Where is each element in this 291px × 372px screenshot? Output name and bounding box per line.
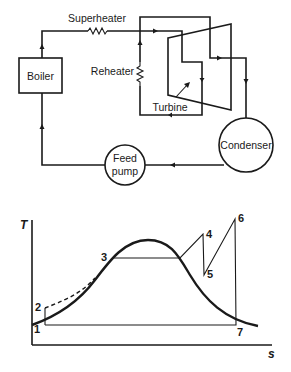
reheater-label: Reheater xyxy=(91,65,135,77)
state-point-6: 6 xyxy=(238,212,244,224)
t-axis-label: T xyxy=(20,218,29,232)
schematic: Boiler Superheater Reheater Turbine Cond… xyxy=(19,12,273,185)
saturation-dome xyxy=(32,240,258,326)
pipe-boiler-to-superheater xyxy=(42,31,88,58)
arrow-down-icon xyxy=(200,78,205,82)
arrow-up-icon xyxy=(40,124,45,129)
state-point-3: 3 xyxy=(101,251,107,263)
arrow-right-icon xyxy=(153,29,158,34)
feed-pump-label-line2: pump xyxy=(112,165,138,177)
superheater-label: Superheater xyxy=(68,12,126,24)
s-axis-label: s xyxy=(268,347,275,361)
reheater-coil xyxy=(137,62,143,86)
turbine-label: Turbine xyxy=(152,101,187,113)
turbine-casing xyxy=(168,24,231,110)
state-point-4: 4 xyxy=(206,228,213,240)
state-point-5: 5 xyxy=(207,268,213,280)
superheater-coil xyxy=(88,28,107,34)
condenser-label: Condenser xyxy=(220,139,272,151)
arrow-left-icon xyxy=(168,113,172,118)
diagram-canvas: Boiler Superheater Reheater Turbine Cond… xyxy=(0,0,291,372)
pipe-pump-to-boiler xyxy=(42,93,105,165)
arrow-down-icon xyxy=(244,79,249,84)
arrow-up-icon xyxy=(138,40,143,45)
arrow-left-icon xyxy=(170,163,175,168)
state-point-1: 1 xyxy=(34,323,40,335)
state-point-7: 7 xyxy=(237,326,243,338)
arrow-right-icon xyxy=(217,56,222,61)
boiler-label: Boiler xyxy=(27,70,54,82)
arrow-up-icon xyxy=(40,44,45,49)
ts-diagram: T s 1 2 3 4 5 6 7 xyxy=(20,212,275,361)
feed-pump-label-line1: Feed xyxy=(113,152,137,164)
state-point-2: 2 xyxy=(35,301,41,313)
